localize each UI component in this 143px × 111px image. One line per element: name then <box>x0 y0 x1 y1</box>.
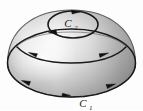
label-c1: C 1 <box>79 97 92 110</box>
figure-container: C 2 C 1 <box>0 0 143 110</box>
hemisphere-diagram: C 2 C 1 <box>0 0 143 110</box>
label-c2-subscript: 2 <box>74 24 78 32</box>
specular-highlight <box>10 33 78 83</box>
label-c1-base: C <box>79 97 87 109</box>
label-c2-base: C <box>64 17 72 29</box>
label-c1-subscript: 1 <box>89 104 93 111</box>
